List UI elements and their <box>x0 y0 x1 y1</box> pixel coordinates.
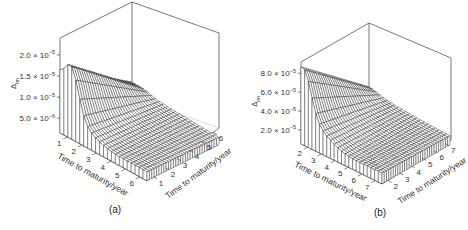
x-tick-label: 6 <box>352 176 357 185</box>
z-tick-label: 2.0 × 10−5 <box>20 49 55 60</box>
y-tick <box>388 180 392 182</box>
surface-plot-panel-a: 5.0 × 10−61.0 × 10−51.5 × 10−52.0 × 10−5… <box>9 2 233 215</box>
x-tick-label: 4 <box>325 163 330 172</box>
y-tick-label: 7 <box>451 146 456 155</box>
x-tick <box>136 177 140 179</box>
x-tick-label: 5 <box>338 169 343 178</box>
z-tick-label: 4.0 × 10−5 <box>261 106 296 117</box>
y-tick-label: 3 <box>183 161 188 170</box>
x-tick <box>63 137 67 139</box>
x-tick <box>344 167 348 169</box>
z-tick-label: 8.0 × 10−5 <box>261 68 296 79</box>
y-tick-label: 2 <box>171 170 176 179</box>
x-tick <box>78 145 82 147</box>
x-tick <box>121 169 125 171</box>
panel-label: (a) <box>109 204 121 215</box>
y-tick-label: 6 <box>219 134 224 143</box>
z-tick-label: 1.5 × 10−5 <box>20 71 55 82</box>
z-tick-label: 5.0 × 10−6 <box>20 113 55 124</box>
x-tick <box>317 154 321 156</box>
x-tick-label: 2 <box>298 149 303 158</box>
x-tick <box>304 147 308 149</box>
z-tick-label: 2.0 × 10−5 <box>261 124 296 135</box>
z-axis-title: Δnn <box>250 96 261 107</box>
panel-label: (b) <box>374 207 386 218</box>
x-tick <box>358 174 362 176</box>
x-tick-label: 6 <box>130 179 135 188</box>
x-tick-label: 4 <box>101 163 106 172</box>
z-axis-title: Δnn <box>9 78 20 89</box>
y-tick <box>399 173 403 175</box>
y-tick-label: 3 <box>405 175 410 184</box>
x-tick-label: 2 <box>72 147 77 156</box>
z-tick-label: 1.0 × 10−5 <box>20 92 55 103</box>
x-tick <box>92 153 96 155</box>
x-tick <box>107 161 111 163</box>
x-tick <box>331 161 335 163</box>
x-tick-label: 5 <box>115 171 120 180</box>
y-tick-label: 2 <box>394 182 399 191</box>
y-tick-label: 4 <box>195 152 200 161</box>
box-top-edge <box>60 2 219 38</box>
x-tick-label: 1 <box>57 139 62 148</box>
x-tick-label: 7 <box>365 183 370 192</box>
surface-chart-figure: 5.0 × 10−61.0 × 10−51.5 × 10−52.0 × 10−5… <box>0 0 468 230</box>
box-top-edge <box>301 23 451 62</box>
y-tick-label: 5 <box>428 160 433 169</box>
y-tick-label: 4 <box>417 168 422 177</box>
z-tick-label: 6.0 × 10−5 <box>261 87 296 98</box>
y-tick-label: 6 <box>440 153 445 162</box>
x-tick-label: 3 <box>311 156 316 165</box>
x-tick-label: 3 <box>86 155 91 164</box>
x-tick <box>371 181 375 183</box>
y-tick-label: 1 <box>159 179 164 188</box>
y-tick-label: 5 <box>207 143 212 152</box>
surface-plot-panel-b: 2.0 × 10−54.0 × 10−56.0 × 10−58.0 × 10−5… <box>250 23 468 218</box>
